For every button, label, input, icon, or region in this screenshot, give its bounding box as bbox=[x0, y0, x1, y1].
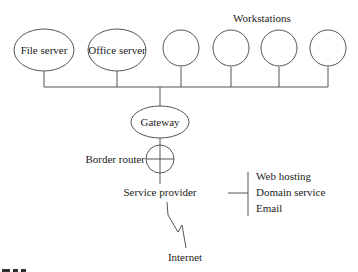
gateway-node: Gateway bbox=[131, 106, 189, 138]
border-router-label: Border router bbox=[85, 153, 145, 165]
workstation-1 bbox=[163, 30, 199, 66]
workstations-label: Workstations bbox=[233, 12, 291, 24]
workstation-2 bbox=[213, 30, 249, 66]
workstation-3 bbox=[261, 30, 297, 66]
workstation-4 bbox=[310, 30, 346, 66]
gateway-label: Gateway bbox=[140, 116, 180, 128]
border-router-node: Border router bbox=[85, 145, 174, 173]
office-server-node: Office server bbox=[88, 29, 146, 71]
service-provider-label: Service provider bbox=[124, 186, 197, 198]
file-server-node: File server bbox=[14, 29, 74, 71]
service-web-hosting: Web hosting bbox=[256, 170, 312, 182]
internet-label: Internet bbox=[168, 251, 202, 263]
service-email: Email bbox=[256, 202, 282, 214]
office-server-label: Office server bbox=[88, 44, 146, 56]
network-diagram: Workstations File server Office server G… bbox=[0, 0, 358, 272]
file-server-label: File server bbox=[21, 44, 68, 56]
internet-link-bolt bbox=[167, 202, 186, 248]
service-domain: Domain service bbox=[256, 186, 325, 198]
